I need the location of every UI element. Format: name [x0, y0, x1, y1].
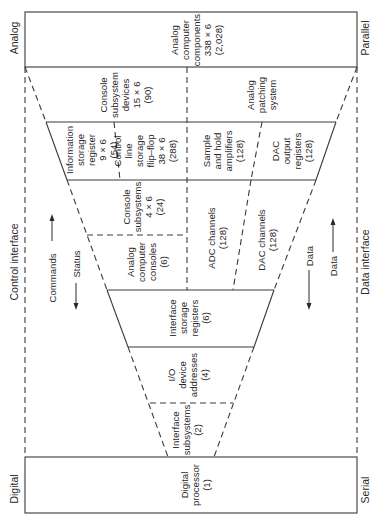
status-label: Status: [71, 250, 82, 277]
svg-text:Analog: Analog: [125, 247, 136, 277]
block-interface-storage-registers: Interface storage registers (6): [167, 299, 211, 336]
status-arrowhead-icon: [74, 303, 79, 310]
svg-text:(4): (4): [199, 369, 210, 381]
svg-text:(128): (128): [267, 229, 278, 251]
svg-text:38 × 6: 38 × 6: [156, 138, 167, 165]
svg-text:(6): (6): [158, 256, 169, 268]
svg-text:(288): (288): [167, 140, 178, 162]
svg-text:addresses: addresses: [188, 353, 199, 397]
svg-text:4 × 6: 4 × 6: [143, 196, 154, 218]
svg-text:consoles: consoles: [147, 243, 158, 281]
block-console-subsystem-devices: Console subsystem devices 15 × 6 (90): [98, 72, 153, 118]
svg-text:and hold: and hold: [212, 133, 223, 170]
serial-label: Serial: [359, 477, 371, 504]
funnel-right-3: [274, 180, 316, 290]
block-io-device-addresses: I/O device addresses (4): [166, 353, 210, 397]
svg-text:(128): (128): [234, 140, 245, 162]
svg-text:registers: registers: [292, 132, 303, 169]
parallel-label: Parallel: [359, 20, 371, 55]
svg-text:computer: computer: [180, 19, 191, 60]
svg-text:patching: patching: [256, 77, 267, 113]
svg-text:line: line: [123, 144, 134, 159]
svg-text:ADC channels: ADC channels: [206, 207, 217, 269]
funnel-left-4: [107, 290, 128, 347]
data-up-arrowhead-icon: [331, 218, 336, 225]
data-up-label: Data: [328, 255, 339, 276]
svg-text:components: components: [191, 14, 202, 66]
svg-text:I/O: I/O: [166, 369, 177, 382]
svg-text:338 × 6: 338 × 6: [202, 24, 213, 56]
block-analog-components: Analog computer components 338 × 6 (2,02…: [169, 14, 224, 66]
svg-text:Control: Control: [112, 136, 123, 167]
svg-text:storage: storage: [178, 302, 189, 334]
funnel-right-2: [316, 122, 336, 180]
control-interface-label: Control interface: [8, 223, 20, 300]
svg-text:DAC channels: DAC channels: [256, 209, 267, 271]
hybrid-interface-diagram: Analog Digital Parallel Serial Control i…: [0, 0, 385, 522]
data-interface-label: Data interface: [359, 229, 371, 295]
block-interface-subsystems: Interface subsystems (2): [170, 404, 203, 455]
svg-text:15 × 6: 15 × 6: [131, 82, 142, 109]
svg-text:device: device: [177, 361, 188, 389]
block-analog-patching: Analog patching system: [245, 77, 278, 113]
svg-text:Analog: Analog: [169, 25, 180, 55]
svg-text:Digital: Digital: [179, 472, 190, 499]
svg-text:devices: devices: [120, 79, 131, 112]
block-analog-consoles: Analog computer consoles (6): [125, 241, 169, 282]
block-digital-processor: Digital processor (1): [179, 463, 212, 506]
patching-dac-divider: [251, 122, 262, 180]
funnel-right-5: [214, 347, 254, 457]
svg-text:registers: registers: [189, 299, 200, 336]
svg-text:storage: storage: [75, 134, 86, 166]
svg-text:register: register: [86, 133, 97, 166]
svg-text:amplifiers: amplifiers: [223, 130, 234, 171]
funnel-left-5: [128, 347, 168, 457]
svg-text:(128): (128): [217, 227, 228, 249]
analog-label: Analog: [8, 21, 20, 54]
svg-text:system: system: [267, 80, 278, 110]
svg-text:(1): (1): [201, 479, 212, 491]
svg-text:DAC: DAC: [270, 141, 281, 161]
block-console-subsystems: Console subsystems 4 × 6 (24): [121, 181, 165, 232]
svg-text:flip–flop: flip–flop: [145, 134, 156, 167]
adc-dac-channels-divider: [233, 180, 251, 290]
block-info-storage-register: Information storage register 9 × 6 (54): [64, 126, 119, 174]
svg-text:(90): (90): [142, 86, 153, 103]
block-dac-channels: DAC channels (128): [256, 209, 278, 271]
svg-text:Console: Console: [98, 77, 109, 112]
data-down-arrowhead-icon: [307, 303, 312, 310]
svg-text:subsystems: subsystems: [181, 404, 192, 455]
svg-text:output: output: [281, 137, 292, 164]
block-dac-output: DAC output registers (128): [270, 132, 314, 169]
data-down-label: Data: [304, 245, 315, 266]
svg-text:processor: processor: [190, 463, 201, 506]
svg-text:(6): (6): [200, 312, 211, 324]
svg-text:Interface: Interface: [170, 411, 181, 448]
block-adc-channels: ADC channels (128): [206, 207, 228, 269]
svg-text:(2,028): (2,028): [213, 25, 224, 55]
svg-text:computer: computer: [136, 241, 147, 282]
commands-label: Commands: [47, 253, 58, 302]
funnel-right-4: [254, 290, 274, 347]
svg-text:Information: Information: [64, 126, 75, 174]
digital-label: Digital: [8, 474, 20, 503]
svg-text:Interface: Interface: [167, 299, 178, 336]
svg-text:subsystem: subsystem: [109, 72, 120, 118]
svg-text:subsystems: subsystems: [132, 181, 143, 232]
svg-text:Sample: Sample: [201, 135, 212, 168]
svg-text:Analog: Analog: [245, 80, 256, 110]
funnel-left-1: [25, 67, 46, 122]
commands-arrowhead-icon: [50, 214, 55, 221]
svg-text:(2): (2): [192, 424, 203, 436]
block-sample-hold: Sample and hold amplifiers (128): [201, 130, 245, 171]
funnel-right-1: [336, 67, 357, 122]
svg-text:(128): (128): [303, 140, 314, 162]
svg-text:(24): (24): [154, 198, 165, 215]
block-control-line-storage: Control line storage flip–flop 38 × 6 (2…: [112, 134, 178, 167]
svg-text:9 × 6: 9 × 6: [97, 139, 108, 161]
svg-text:Console: Console: [121, 189, 132, 224]
svg-text:storage: storage: [134, 135, 145, 167]
